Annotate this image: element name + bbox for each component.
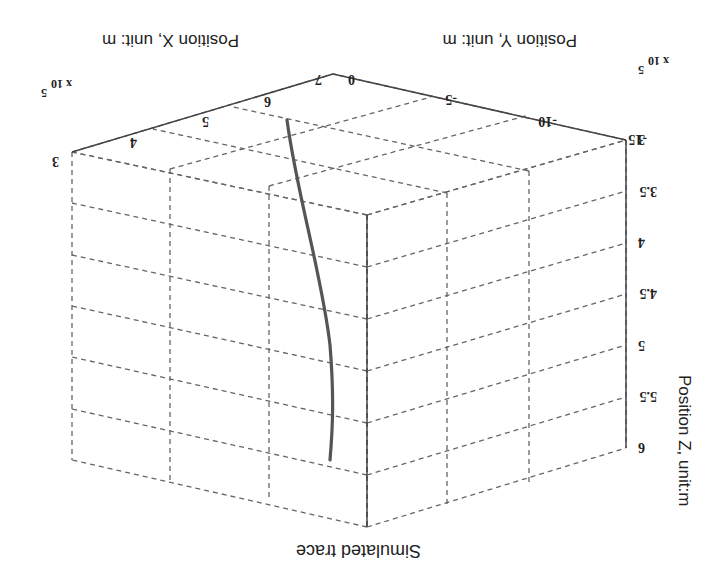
svg-text:-10: -10 bbox=[538, 114, 557, 129]
z-axis-label: Position Z, unit:m bbox=[675, 375, 694, 506]
svg-text:x 10: x 10 bbox=[51, 77, 72, 91]
svg-text:3: 3 bbox=[638, 132, 645, 147]
svg-text:7: 7 bbox=[315, 72, 322, 87]
svg-text:4: 4 bbox=[638, 235, 645, 250]
y-tick-labels: 0 -5 -10 -15 bbox=[348, 72, 647, 147]
svg-text:x 10: x 10 bbox=[648, 54, 669, 68]
svg-text:5.5: 5.5 bbox=[640, 389, 658, 404]
figure-rotated: 3 4 5 6 7 0 -5 -10 -15 3 3.5 4 4.5 5 5.5… bbox=[0, 0, 727, 575]
svg-text:0: 0 bbox=[348, 72, 355, 87]
svg-text:5: 5 bbox=[638, 338, 645, 353]
y-scale-label: x 10 5 bbox=[638, 54, 669, 77]
svg-text:5: 5 bbox=[638, 63, 644, 77]
svg-text:4.5: 4.5 bbox=[640, 286, 658, 301]
x-tick-labels: 3 4 5 6 7 bbox=[52, 72, 322, 169]
svg-text:5: 5 bbox=[41, 86, 47, 100]
grid-lines bbox=[72, 74, 626, 527]
svg-text:-5: -5 bbox=[445, 92, 457, 107]
x-axis-label: Position X, unit: m bbox=[102, 31, 239, 50]
x-scale-label: x 10 5 bbox=[41, 77, 72, 100]
y-axis-line bbox=[333, 74, 626, 140]
axes bbox=[72, 74, 626, 527]
svg-text:5: 5 bbox=[202, 114, 209, 129]
x-axis-line bbox=[72, 74, 333, 152]
svg-text:3.5: 3.5 bbox=[640, 184, 658, 199]
y-axis-label: Position Y, unit: m bbox=[442, 31, 577, 50]
chart-stage: 3 4 5 6 7 0 -5 -10 -15 3 3.5 4 4.5 5 5.5… bbox=[0, 0, 727, 575]
svg-text:6: 6 bbox=[264, 94, 271, 109]
plot-3d: 3 4 5 6 7 0 -5 -10 -15 3 3.5 4 4.5 5 5.5… bbox=[0, 0, 727, 575]
svg-text:3: 3 bbox=[52, 154, 59, 169]
z-tick-labels: 3 3.5 4 4.5 5 5.5 6 bbox=[638, 132, 657, 455]
chart-title: Simulated trace bbox=[296, 541, 421, 561]
svg-text:4: 4 bbox=[130, 135, 137, 150]
svg-text:6: 6 bbox=[638, 440, 645, 455]
